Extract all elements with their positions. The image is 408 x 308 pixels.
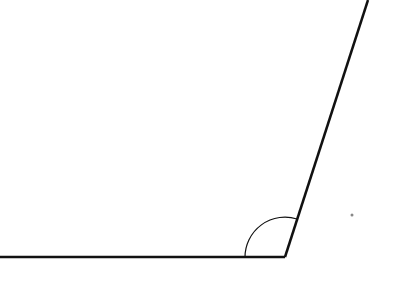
point-marker [351, 214, 354, 217]
slanted-ray [285, 0, 368, 257]
angle-diagram [0, 0, 408, 308]
angle-arc [245, 217, 297, 257]
